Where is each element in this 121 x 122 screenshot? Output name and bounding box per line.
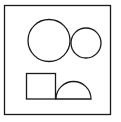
background <box>0 0 121 122</box>
shapes-diagram <box>0 0 121 122</box>
